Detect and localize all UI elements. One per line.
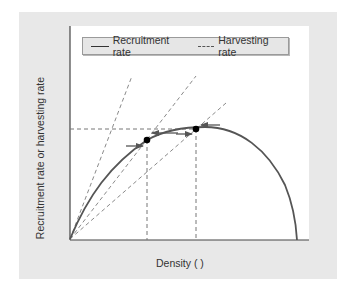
harvest-line-medium [70,76,196,239]
x-axis-label: Density ( ) [156,257,204,269]
legend: Recruitment rate Harvesting rate [82,37,289,55]
recruitment-curve [70,127,297,240]
harvest-line-low [70,103,226,239]
legend-dashed-line-icon [198,46,215,47]
harvesting-lines [70,76,226,239]
y-axis-label: Recruitment rate or harvesting rate [34,77,46,239]
legend-solid-line-icon [91,46,109,47]
equilibrium-point-stable [193,126,200,133]
legend-recruitment-label: Recruitment rate [113,34,189,58]
harvest-line-high [70,76,132,239]
legend-harvesting-label: Harvesting rate [218,34,288,58]
direction-arrows [126,125,220,146]
equilibrium-point-unstable [144,137,151,144]
